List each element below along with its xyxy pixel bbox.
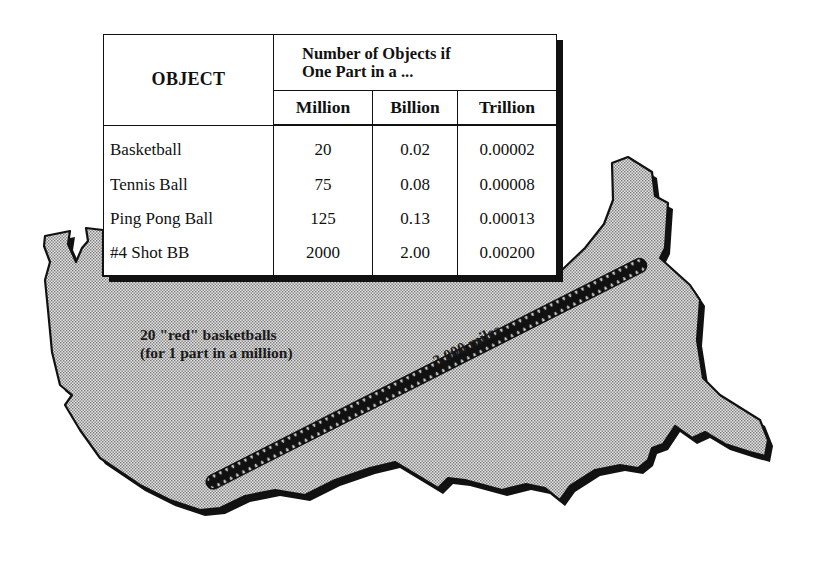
table-row: #4 Shot BB 2000 2.00 0.00200 (104, 236, 557, 276)
annotation-line-1: 20 "red" basketballs (140, 326, 293, 344)
object-column-header: OBJECT (104, 35, 274, 126)
basketballs-annotation: 20 "red" basketballs (for 1 part in a mi… (140, 326, 293, 362)
group-header-line-2: One Part in a ... (302, 63, 550, 81)
billion-column-header: Billion (373, 91, 458, 126)
billion-cell: 0.13 (373, 202, 458, 236)
data-table-container: OBJECT Number of Objects if One Part in … (103, 34, 557, 276)
trillion-cell: 0.00008 (458, 168, 557, 202)
trillion-cell: 0.00200 (458, 236, 557, 276)
billion-cell: 0.08 (373, 168, 458, 202)
table-row: Basketball 20 0.02 0.00002 (104, 125, 557, 168)
trillion-cell: 0.00013 (458, 202, 557, 236)
million-cell: 2000 (274, 236, 373, 276)
annotation-line-2: (for 1 part in a million) (140, 344, 293, 362)
billion-cell: 2.00 (373, 236, 458, 276)
table-row: Ping Pong Ball 125 0.13 0.00013 (104, 202, 557, 236)
group-column-header: Number of Objects if One Part in a ... (274, 35, 557, 91)
trillion-cell: 0.00002 (458, 125, 557, 168)
group-header-line-1: Number of Objects if (302, 45, 550, 63)
trillion-column-header: Trillion (458, 91, 557, 126)
object-cell: Basketball (104, 125, 274, 168)
table-row: Tennis Ball 75 0.08 0.00008 (104, 168, 557, 202)
object-cell: Tennis Ball (104, 168, 274, 202)
million-cell: 75 (274, 168, 373, 202)
object-cell: #4 Shot BB (104, 236, 274, 276)
billion-cell: 0.02 (373, 125, 458, 168)
parts-per-table: OBJECT Number of Objects if One Part in … (103, 34, 557, 276)
million-cell: 20 (274, 125, 373, 168)
million-cell: 125 (274, 202, 373, 236)
million-column-header: Million (274, 91, 373, 126)
object-cell: Ping Pong Ball (104, 202, 274, 236)
